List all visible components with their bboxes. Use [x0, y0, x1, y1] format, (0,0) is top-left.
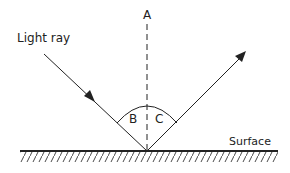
angle-c-label: C — [155, 112, 163, 126]
reflection-diagram: Light ray A B C Surface — [0, 0, 290, 173]
surface-hatching — [20, 151, 278, 162]
light-ray-label: Light ray — [17, 31, 70, 45]
angle-b-label: B — [129, 112, 137, 126]
reflected-arrowhead-icon — [235, 51, 246, 62]
incident-ray — [44, 54, 147, 151]
surface-label: Surface — [229, 135, 271, 148]
incident-arrowhead-icon — [84, 90, 95, 102]
normal-label: A — [143, 8, 152, 22]
